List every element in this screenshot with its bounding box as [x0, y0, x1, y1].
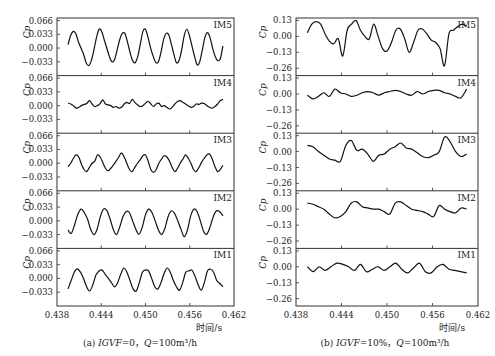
y-tick-label: −0.033	[22, 114, 53, 124]
y-tick-label: 0.13	[273, 246, 292, 256]
y-axis-label: Cp	[22, 141, 32, 154]
caption-part: (b)	[321, 338, 337, 348]
y-tick-label: −0.033	[22, 287, 53, 297]
y-axis-label: Cp	[258, 83, 268, 96]
panel-im1: 0.130.00−0.13−0.26CpIM1	[258, 246, 478, 306]
y-tick-label: 0.13	[273, 15, 292, 25]
x-tick-label: 0.456	[178, 310, 202, 320]
caption-part: =10%，	[360, 338, 397, 348]
caption-part: (a)	[83, 338, 98, 348]
y-tick-label: 0.066	[29, 73, 53, 83]
y-tick-label: −0.13	[266, 47, 292, 57]
y-tick-label: 0.00	[273, 262, 292, 272]
x-tick-label: 0.438	[45, 310, 69, 320]
y-axis-label: Cp	[22, 25, 32, 38]
y-tick-label: −0.13	[266, 163, 292, 173]
plot-frame	[296, 18, 478, 306]
panel-label: IM4	[458, 78, 477, 88]
y-tick-label: 0.13	[273, 73, 292, 83]
caption-part: IGVF	[97, 338, 122, 348]
y-tick-label: 0.066	[29, 188, 53, 198]
y-tick-label: 0.13	[273, 188, 292, 198]
panel-im4: 0.130.00−0.13−0.26CpIM4	[258, 73, 478, 133]
y-axis-label: Cp	[258, 256, 268, 269]
x-tick-label: 0.438	[284, 310, 308, 320]
figure: 0.0660.0330.000−0.033CpIM50.0660.0330.00…	[0, 0, 495, 356]
y-tick-label: 0.033	[29, 29, 53, 39]
y-tick-label: 0.066	[29, 131, 53, 141]
y-tick-label: −0.13	[266, 105, 292, 115]
y-axis-label: Cp	[258, 141, 268, 154]
caption-part: IGVF	[335, 338, 360, 348]
y-tick-label: −0.26	[266, 121, 292, 131]
x-tick-label: 0.462	[222, 310, 246, 320]
y-tick-label: 0.00	[273, 204, 292, 214]
panel-im1: 0.0660.0330.000−0.033CpIM1	[22, 246, 234, 306]
x-tick-label: 0.444	[329, 310, 353, 320]
panel-label: IM3	[458, 135, 477, 145]
panel-im5: 0.0660.0330.000−0.033CpIM5	[22, 16, 233, 76]
y-tick-label: −0.26	[266, 63, 292, 73]
x-tick-label: 0.450	[133, 310, 157, 320]
panel-label: IM2	[214, 193, 233, 203]
x-tick-label: 0.456	[420, 310, 444, 320]
x-axis-label: 时间/s	[196, 322, 222, 333]
panel-im2: 0.130.00−0.13−0.26CpIM2	[258, 188, 478, 248]
y-tick-label: −0.26	[266, 294, 292, 304]
y-tick-label: 0.033	[29, 202, 53, 212]
panel-im3: 0.130.00−0.13−0.26CpIM3	[258, 131, 478, 191]
panel-label: IM5	[214, 20, 233, 30]
y-axis-label: Cp	[22, 83, 32, 96]
panel-label: IM1	[458, 250, 477, 260]
y-axis-label: Cp	[22, 198, 32, 211]
series-line-im1	[68, 268, 223, 291]
y-tick-label: −0.13	[266, 278, 292, 288]
y-tick-label: 0.066	[29, 246, 53, 256]
y-tick-label: 0.000	[29, 158, 53, 168]
plot-frame	[57, 18, 234, 306]
series-line-im2	[307, 201, 466, 217]
caption-part: =100m³/h	[404, 338, 450, 348]
panel-im4: 0.0660.0330.000−0.033CpIM4	[22, 73, 234, 133]
y-tick-label: 0.066	[29, 16, 53, 26]
y-tick-label: 0.00	[273, 31, 292, 41]
y-tick-label: 0.000	[29, 273, 53, 283]
caption-part: =100m³/h	[151, 338, 197, 348]
y-tick-label: 0.000	[29, 101, 53, 111]
x-tick-label: 0.444	[89, 310, 113, 320]
series-line-im4	[307, 89, 466, 99]
series-line-im5	[307, 20, 466, 66]
caption-part: =0，	[122, 338, 144, 348]
y-tick-label: 0.033	[29, 260, 53, 270]
chart-caption: (b) IGVF=10%，Q=100m³/h	[321, 338, 450, 348]
panel-label: IM2	[458, 193, 477, 203]
y-tick-label: 0.13	[273, 131, 292, 141]
series-line-im2	[68, 209, 223, 237]
y-axis-label: Cp	[258, 25, 268, 38]
chart-b: 0.130.00−0.13−0.26CpIM50.130.00−0.13−0.2…	[258, 15, 490, 348]
y-axis-label: Cp	[22, 256, 32, 269]
series-line-im1	[307, 263, 466, 273]
y-tick-label: 0.00	[273, 147, 292, 157]
panel-im5: 0.130.00−0.13−0.26CpIM5	[258, 15, 476, 75]
y-tick-label: 0.00	[273, 89, 292, 99]
y-tick-label: −0.26	[266, 178, 292, 188]
y-tick-label: −0.033	[22, 230, 53, 240]
y-tick-label: 0.033	[29, 87, 53, 97]
y-tick-label: −0.13	[266, 220, 292, 230]
series-line-im4	[68, 99, 223, 109]
y-tick-label: −0.033	[22, 57, 53, 67]
panel-label: IM1	[214, 250, 233, 260]
y-axis-label: Cp	[258, 198, 268, 211]
series-line-im3	[307, 137, 466, 163]
panel-im3: 0.0660.0330.000−0.033CpIM3	[22, 131, 234, 191]
panel-im2: 0.0660.0330.000−0.033CpIM2	[22, 188, 234, 248]
y-tick-label: 0.000	[29, 216, 53, 226]
y-tick-label: −0.26	[266, 236, 292, 246]
x-tick-label: 0.462	[466, 310, 490, 320]
y-tick-label: −0.033	[22, 172, 53, 182]
x-axis-label: 时间/s	[439, 322, 465, 333]
chart-caption: (a) IGVF=0，Q=100m³/h	[83, 338, 197, 348]
chart-a: 0.0660.0330.000−0.033CpIM50.0660.0330.00…	[22, 16, 247, 348]
series-line-im3	[68, 153, 223, 173]
